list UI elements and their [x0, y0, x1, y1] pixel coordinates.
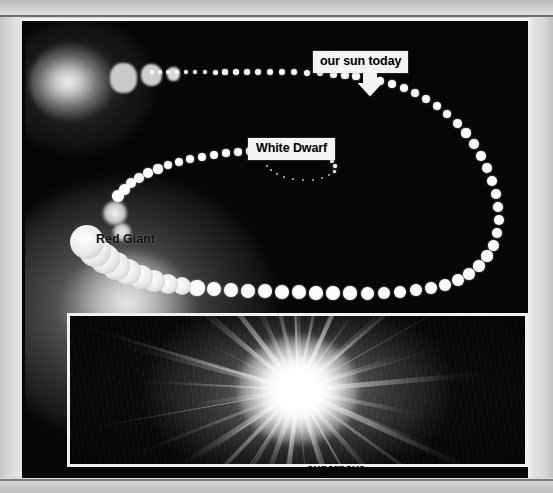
- track-dot: [210, 151, 218, 159]
- track-dot: [255, 69, 261, 75]
- track-dot: [487, 176, 497, 186]
- track-dot: [175, 158, 183, 166]
- track-dot: [279, 69, 285, 75]
- track-dot: [330, 159, 334, 163]
- track-dot: [224, 283, 239, 298]
- track-dot: [292, 285, 306, 299]
- track-dot: [410, 284, 422, 296]
- diagram-stage: our sun today White Dwarf Red Giant supe…: [25, 21, 528, 478]
- track-dot: [241, 284, 255, 298]
- track-dot: [244, 69, 250, 75]
- track-dot: [411, 89, 419, 97]
- stellar-nebula-glow: [29, 43, 115, 121]
- track-dot: [275, 285, 289, 299]
- track-dot: [361, 287, 374, 300]
- track-dot: [309, 286, 323, 300]
- track-dot: [469, 139, 478, 148]
- track-dot: [425, 282, 437, 294]
- track-dot: [186, 155, 194, 163]
- track-dot: [270, 169, 271, 170]
- track-dot: [198, 153, 206, 161]
- track-dot: [321, 177, 323, 179]
- track-dot: [326, 286, 339, 299]
- track-dot: [443, 110, 452, 119]
- protostar-clump-2: [141, 64, 162, 86]
- track-dot: [150, 70, 153, 73]
- track-dot: [493, 202, 503, 212]
- track-dot: [312, 179, 314, 181]
- track-dot: [333, 170, 336, 173]
- paper-rule-bottom: [0, 479, 553, 481]
- track-dot: [333, 164, 336, 167]
- track-dot: [166, 70, 170, 74]
- track-dot: [153, 164, 162, 173]
- track-dot: [158, 70, 162, 74]
- track-dot: [203, 70, 208, 75]
- track-dot: [189, 280, 204, 295]
- track-dot: [452, 274, 464, 286]
- track-dot: [328, 174, 331, 177]
- track-dot: [378, 287, 391, 300]
- track-dot: [492, 228, 503, 239]
- track-dot: [473, 260, 484, 271]
- track-dot: [491, 189, 501, 199]
- track-dot: [453, 119, 462, 128]
- track-dot: [394, 286, 407, 299]
- label-red-giant: Red Giant: [96, 232, 155, 246]
- track-dot: [234, 148, 241, 155]
- star-lifecycle-photo: our sun today White Dwarf Red Giant supe…: [22, 18, 531, 478]
- track-dot: [276, 173, 278, 175]
- track-dot: [266, 165, 267, 166]
- track-dot: [233, 69, 238, 74]
- track-dot: [481, 250, 492, 261]
- paper-rule-top: [0, 15, 553, 17]
- track-dot: [213, 70, 218, 75]
- track-dot: [343, 286, 356, 299]
- down-arrow-icon: [357, 70, 383, 97]
- track-dot: [433, 102, 442, 111]
- track-dot: [283, 176, 285, 178]
- track-dot: [292, 178, 294, 180]
- track-dot: [164, 161, 173, 170]
- red-giant-spark-1: [103, 201, 127, 225]
- scanned-page: our sun today White Dwarf Red Giant supe…: [0, 0, 553, 493]
- protostar-clump-1: [110, 63, 137, 93]
- track-dot: [291, 69, 297, 75]
- track-dot: [193, 70, 198, 75]
- track-dot: [222, 69, 227, 74]
- supernova-vignette: [70, 316, 525, 464]
- track-dot: [422, 95, 430, 103]
- paper-margin-right: [531, 17, 553, 478]
- track-dot: [184, 70, 188, 74]
- track-dot: [476, 151, 486, 161]
- track-dot: [258, 284, 272, 298]
- supernova-inset-photo: [67, 313, 528, 467]
- track-dot: [388, 80, 396, 88]
- track-dot: [488, 240, 499, 251]
- track-dot: [439, 279, 451, 291]
- track-dot: [482, 163, 492, 173]
- track-dot: [222, 149, 230, 157]
- protostar-clump-3: [167, 67, 180, 81]
- photo-frame-right-edge: [528, 18, 531, 478]
- track-dot: [143, 168, 153, 178]
- track-dot: [463, 268, 475, 280]
- track-dot: [400, 84, 408, 92]
- label-supernova: supernova: [307, 462, 365, 474]
- track-dot: [494, 215, 505, 226]
- track-dot: [461, 128, 470, 137]
- track-dot: [302, 179, 304, 181]
- track-dot: [207, 282, 222, 297]
- track-dot: [267, 69, 273, 75]
- label-white-dwarf: White Dwarf: [248, 138, 335, 160]
- track-dot: [304, 70, 311, 77]
- paper-margin-left: [0, 17, 22, 478]
